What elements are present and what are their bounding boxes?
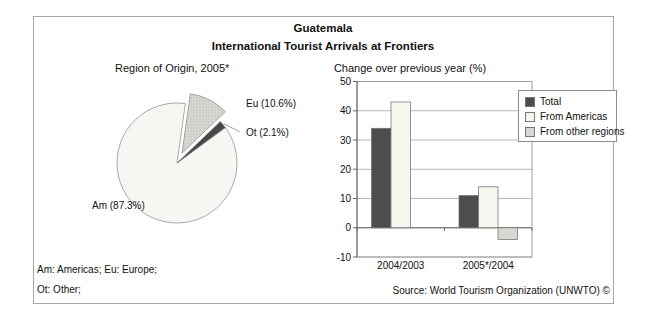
y-axis-tick-label: 50 [340, 76, 352, 87]
bar-from-americas-2005-2004 [479, 187, 499, 228]
chart-panel: Guatemala International Tourist Arrivals… [0, 0, 645, 318]
footnote-abbreviations-1: Am: Americas; Eu: Europe; [37, 264, 157, 275]
footnote-abbreviations-2: Ot: Other; [37, 284, 81, 295]
bar-from-americas-2004-2003 [391, 102, 411, 228]
legend-label-total: Total [540, 96, 561, 107]
bar-from-other-regions-2005-2004 [498, 228, 518, 240]
y-axis-tick-label: 20 [340, 164, 352, 175]
x-axis-category-label: 2005*/2004 [463, 260, 515, 271]
x-axis-category-label: 2004/2003 [377, 260, 425, 271]
legend-swatch-from-americas [525, 112, 535, 122]
y-axis-tick-label: 0 [345, 222, 351, 233]
y-axis-tick-label: -10 [337, 252, 352, 263]
legend-label-from-americas: From Americas [540, 111, 607, 122]
bar-chart-title: Change over previous year (%) [300, 62, 520, 74]
bar-total-2005-2004 [459, 196, 479, 228]
legend-item-from-americas: From Americas [525, 111, 611, 122]
y-axis-tick-label: 10 [340, 193, 352, 204]
pie-label-europe: Eu (10.6%) [246, 98, 296, 109]
legend-swatch-from-other-regions [525, 127, 535, 137]
source-attribution: Source: World Tourism Organization (UNWT… [393, 285, 610, 296]
legend-swatch-total [525, 97, 535, 107]
bar-chart-legend: Total From Americas From other regions [518, 90, 617, 142]
page-title: Guatemala [33, 22, 613, 34]
pie-chart-title: Region of Origin, 2005* [115, 62, 229, 74]
y-axis-tick-label: 40 [340, 105, 352, 116]
pie-label-other: Ot (2.1%) [246, 127, 289, 138]
pie-label-americas: Am (87.3%) [92, 200, 145, 211]
legend-item-from-other-regions: From other regions [525, 126, 611, 137]
legend-label-from-other-regions: From other regions [540, 126, 624, 137]
bar-total-2004-2003 [372, 128, 392, 227]
y-axis-tick-label: 30 [340, 135, 352, 146]
page-subtitle: International Tourist Arrivals at Fronti… [33, 40, 613, 52]
pie-chart [88, 88, 280, 240]
legend-item-total: Total [525, 96, 611, 107]
